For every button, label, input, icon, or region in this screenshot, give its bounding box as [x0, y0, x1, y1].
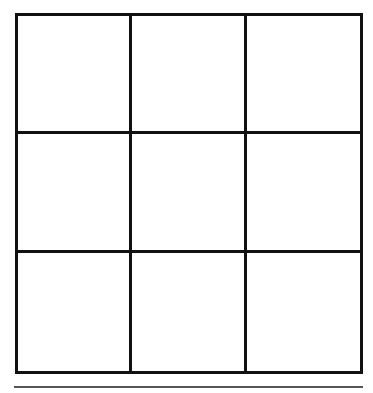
cell-2-0[interactable] — [18, 253, 132, 371]
cell-1-1[interactable] — [132, 134, 247, 253]
cell-0-0[interactable] — [18, 16, 132, 134]
game-board — [15, 13, 363, 374]
bottom-divider — [14, 386, 363, 388]
cell-0-2[interactable] — [247, 16, 360, 134]
cell-2-1[interactable] — [132, 253, 247, 371]
cell-0-1[interactable] — [132, 16, 247, 134]
cell-1-2[interactable] — [247, 134, 360, 253]
cell-1-0[interactable] — [18, 134, 132, 253]
cell-2-2[interactable] — [247, 253, 360, 371]
